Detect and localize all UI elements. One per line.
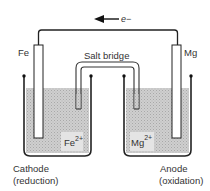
electron-label: e− (121, 14, 131, 24)
mg-electrode (172, 45, 181, 138)
external-wire (39, 30, 178, 45)
mg-electrode-label: Mg (184, 47, 197, 58)
fe-electrode-label: Fe (18, 47, 29, 58)
galvanic-cell-diagram: e− Salt bridge Fe Mg Fe2+ Mg2+ Cathode (… (0, 0, 210, 191)
anode-label: Anode (160, 163, 187, 174)
fe-electrode (34, 45, 43, 138)
salt-bridge-label: Salt bridge (84, 50, 129, 61)
cathode-label: Cathode (13, 163, 49, 174)
cathode-process-label: (reduction) (13, 175, 58, 186)
electron-flow-arrow-icon (94, 15, 119, 23)
anode-process-label: (oxidation) (159, 175, 203, 186)
